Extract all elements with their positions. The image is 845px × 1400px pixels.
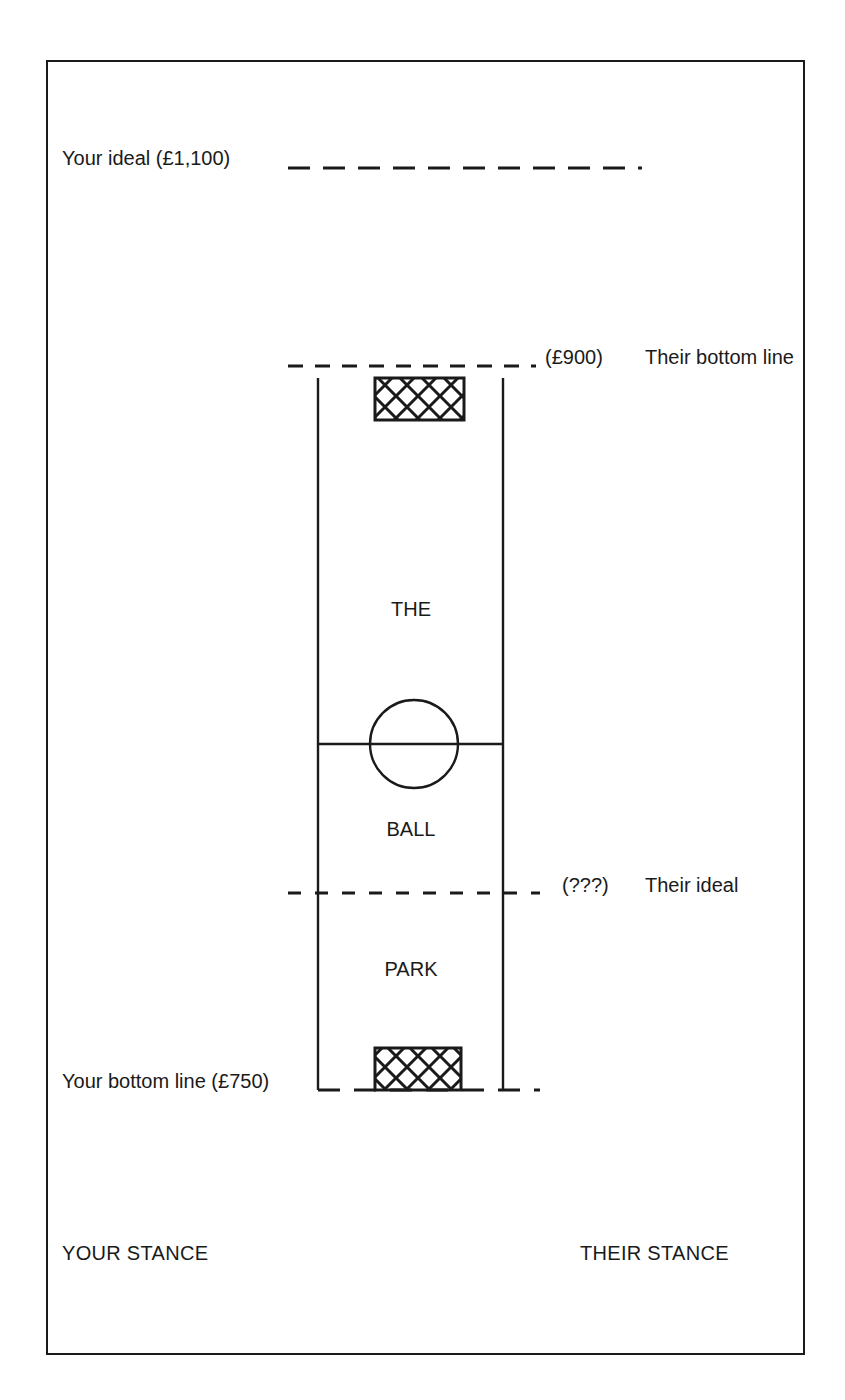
their-ideal-label: Their ideal (645, 872, 738, 899)
your-stance-label: YOUR STANCE (62, 1242, 208, 1265)
their-bottom-line-label: Their bottom line (645, 344, 795, 371)
their-stance-label: THEIR STANCE (580, 1242, 729, 1265)
their-bottom-value-label: (£900) (545, 344, 603, 371)
their-ideal-value-label: (???) (562, 872, 609, 899)
pitch-word-the: THE (318, 598, 504, 621)
your-ideal-label: Your ideal (£1,100) (62, 145, 230, 172)
diagram-frame (46, 60, 805, 1355)
negotiation-ballpark-diagram: Your ideal (£1,100) (£900) Their bottom … (0, 0, 845, 1400)
pitch-word-park: PARK (318, 958, 504, 981)
your-bottom-line-label: Your bottom line (£750) (62, 1068, 269, 1095)
pitch-word-ball: BALL (318, 818, 504, 841)
